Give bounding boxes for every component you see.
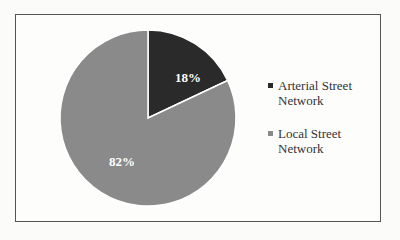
legend-swatch-local bbox=[268, 131, 273, 136]
legend-swatch-arterial bbox=[268, 83, 273, 88]
slice-label-arterial: 18% bbox=[175, 70, 201, 85]
slice-label-local: 82% bbox=[109, 154, 135, 169]
legend-label-local-line2: Network bbox=[278, 141, 383, 156]
legend: Arterial Street Network Local Street Net… bbox=[268, 78, 383, 174]
legend-label-local-line1: Local Street bbox=[278, 126, 383, 141]
legend-label-arterial-line2: Network bbox=[278, 93, 383, 108]
legend-label-arterial-line1: Arterial Street bbox=[278, 78, 383, 93]
legend-item-arterial: Arterial Street Network bbox=[268, 78, 383, 108]
legend-item-local: Local Street Network bbox=[268, 126, 383, 156]
